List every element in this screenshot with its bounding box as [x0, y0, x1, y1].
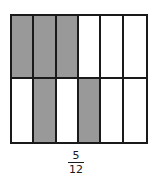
- numerator: 5: [73, 150, 80, 161]
- shaded-cell: [34, 79, 56, 142]
- empty-cell: [12, 79, 34, 142]
- shaded-cell: [12, 16, 34, 79]
- empty-cell: [79, 16, 101, 79]
- empty-cell: [101, 16, 123, 79]
- shaded-cell: [34, 16, 56, 79]
- empty-cell: [124, 79, 146, 142]
- empty-cell: [57, 79, 79, 142]
- fraction-label: 5 12: [64, 150, 88, 175]
- fraction-grid: [10, 14, 148, 144]
- empty-cell: [124, 16, 146, 79]
- denominator: 12: [69, 164, 83, 175]
- shaded-cell: [79, 79, 101, 142]
- empty-cell: [101, 79, 123, 142]
- shaded-cell: [57, 16, 79, 79]
